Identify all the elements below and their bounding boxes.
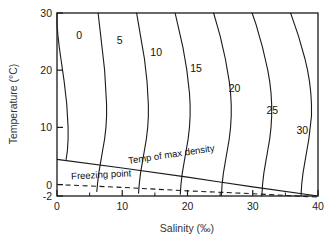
temperature-salinity-density-chart: 010203040 -20102030 051015202530 Temp of… — [0, 0, 334, 241]
x-tick-label: 20 — [182, 200, 194, 212]
y-tick-label: -2 — [43, 190, 52, 202]
contour-label-5: 5 — [117, 34, 123, 46]
x-tick-label: 40 — [312, 200, 324, 212]
contour-label-15: 15 — [190, 62, 202, 74]
contour-label-0: 0 — [76, 29, 82, 41]
contour-label-20: 20 — [229, 82, 241, 94]
y-tick-label: 30 — [40, 7, 52, 19]
x-axis-title: Salinity (‰) — [160, 222, 214, 234]
contour-label-30: 30 — [296, 124, 308, 136]
contour-label-10: 10 — [150, 46, 162, 58]
y-tick-label: 0 — [46, 179, 52, 191]
y-tick-label: 10 — [40, 121, 52, 133]
y-tick-label: 20 — [40, 64, 52, 76]
x-tick-label: 30 — [247, 200, 259, 212]
x-tick-label: 10 — [116, 200, 128, 212]
x-tick-label: 0 — [54, 200, 60, 212]
contour-label-25: 25 — [266, 104, 278, 116]
density-diagram-figure: 010203040 -20102030 051015202530 Temp of… — [0, 0, 334, 241]
y-axis-title: Temperature (°C) — [7, 64, 19, 145]
